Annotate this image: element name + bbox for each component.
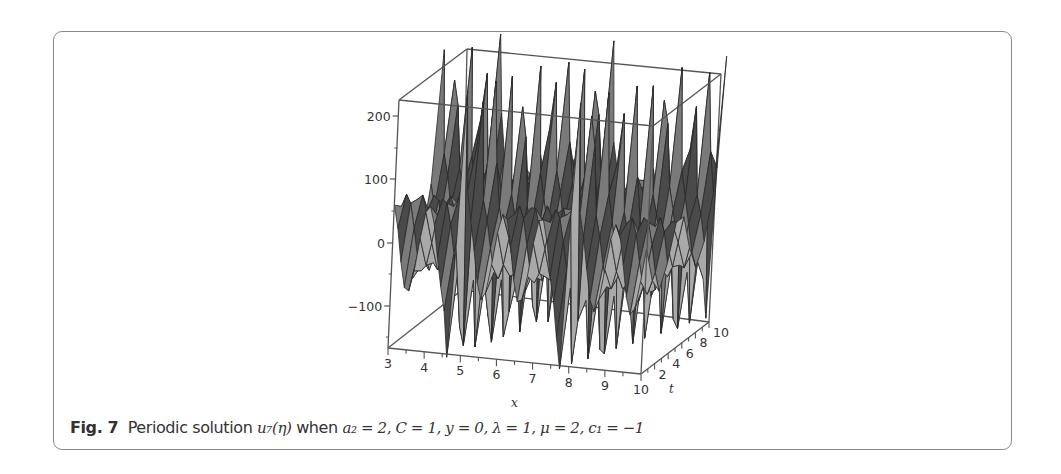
x-tick-label: 5 xyxy=(456,363,464,378)
t-axis-label: t xyxy=(669,382,674,396)
z-axis: 2001000−100 xyxy=(348,109,399,338)
x-tick-label: 3 xyxy=(384,356,392,371)
caption-when: when xyxy=(296,418,338,437)
t-tick-label: 2 xyxy=(659,367,667,382)
z-tick-label: −100 xyxy=(348,299,382,314)
x-tick-label: 6 xyxy=(492,367,500,382)
surface-mesh xyxy=(394,34,726,369)
caption-function: u₇(η) xyxy=(257,419,291,437)
caption-text: Periodic solution xyxy=(128,418,253,437)
z-tick-label: 0 xyxy=(377,236,385,251)
x-tick-label: 10 xyxy=(633,382,649,397)
x-tick-label: 8 xyxy=(565,375,573,390)
x-tick-label: 4 xyxy=(420,360,428,375)
figure-label: Fig. 7 xyxy=(70,418,118,437)
z-tick-label: 200 xyxy=(367,109,391,124)
t-tick-label: 10 xyxy=(713,325,729,340)
t-tick-label: 8 xyxy=(699,335,707,350)
figure-caption: Fig. 7 Periodic solution u₇(η) when a₂ =… xyxy=(70,418,644,437)
surface-plot-3d: 2001000−100 345678910x 246810t xyxy=(0,0,1061,474)
t-tick-label: 4 xyxy=(672,356,680,371)
x-tick-label: 7 xyxy=(529,371,537,386)
caption-parameters: a₂ = 2, C = 1, y = 0, λ = 1, μ = 2, c₁ =… xyxy=(342,419,644,437)
x-axis: 345678910x xyxy=(384,348,649,410)
x-tick-label: 9 xyxy=(601,378,609,393)
z-tick-label: 100 xyxy=(364,172,388,187)
x-axis-label: x xyxy=(511,396,518,410)
t-tick-label: 6 xyxy=(686,346,694,361)
